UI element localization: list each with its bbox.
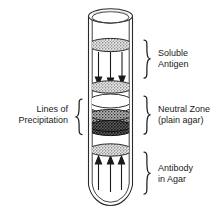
brace-lines-of-precipitation [76, 99, 83, 135]
tube-rim-inner [92, 12, 129, 23]
brace-neutral-zone [144, 96, 151, 134]
precipitation-line-lower [90, 120, 132, 135]
label-lines-of-precipitation: Lines of Precipitation [4, 104, 68, 126]
figure-canvas: Soluble Antigen Neutral Zone (plain agar… [0, 0, 220, 217]
label-soluble-antigen: Soluble Antigen [158, 48, 189, 70]
disc-antigen-bottom [88, 81, 133, 93]
disc-antibody-top [89, 144, 132, 156]
label-antibody-in-agar: Antibody in Agar [158, 163, 193, 185]
brace-antibody-in-agar [144, 152, 151, 194]
label-neutral-zone: Neutral Zone (plain agar) [158, 104, 210, 126]
brace-soluble-antigen [144, 40, 151, 78]
disc-antigen-top [88, 38, 133, 51]
